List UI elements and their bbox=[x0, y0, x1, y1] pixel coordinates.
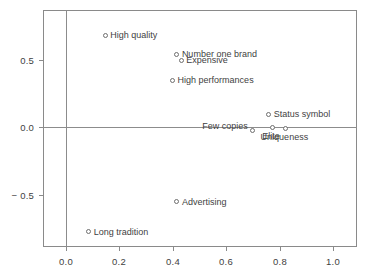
plot-frame bbox=[43, 10, 357, 247]
x-axis-tick bbox=[226, 247, 227, 251]
x-axis-tick-label: 1.0 bbox=[326, 256, 340, 267]
x-axis-tick bbox=[66, 247, 67, 251]
y-axis-tick-label: − 0.5 bbox=[0, 190, 34, 201]
y-axis-tick bbox=[39, 195, 43, 196]
x-axis-tick-label: 0.0 bbox=[59, 256, 73, 267]
y-axis-tick bbox=[39, 60, 43, 61]
data-point-label: Advertising bbox=[182, 197, 227, 207]
scatter-chart: 0.00.20.40.60.81.0 0.50.0− 0.5 High qual… bbox=[0, 0, 369, 279]
x-axis-tick bbox=[173, 247, 174, 251]
data-point-label: Uniqueness bbox=[261, 132, 309, 142]
y-axis-tick-label: 0.5 bbox=[0, 55, 34, 66]
x-axis-tick bbox=[280, 247, 281, 251]
data-point-label: Expensive bbox=[186, 55, 228, 65]
data-point[interactable] bbox=[283, 126, 288, 131]
data-point-label: High quality bbox=[110, 30, 157, 40]
data-point-label: Status symbol bbox=[274, 109, 331, 119]
y-axis-tick-label: 0.0 bbox=[0, 122, 34, 133]
x-axis-tick-label: 0.4 bbox=[166, 256, 180, 267]
x-axis-tick-label: 0.6 bbox=[219, 256, 233, 267]
data-point[interactable] bbox=[179, 58, 184, 63]
x-axis-tick-label: 0.8 bbox=[273, 256, 287, 267]
data-point-label: Long tradition bbox=[94, 227, 149, 237]
data-point[interactable] bbox=[270, 125, 275, 130]
x-axis-tick-label: 0.2 bbox=[112, 256, 126, 267]
x-axis-tick bbox=[119, 247, 120, 251]
data-point[interactable] bbox=[103, 33, 108, 38]
data-point-label: High performances bbox=[178, 75, 254, 85]
data-point-label: Few copies bbox=[202, 121, 248, 131]
data-point[interactable] bbox=[170, 78, 175, 83]
zero-line-vertical bbox=[66, 10, 67, 247]
y-axis-tick bbox=[39, 127, 43, 128]
x-axis-tick bbox=[333, 247, 334, 251]
zero-line-horizontal bbox=[43, 127, 357, 128]
